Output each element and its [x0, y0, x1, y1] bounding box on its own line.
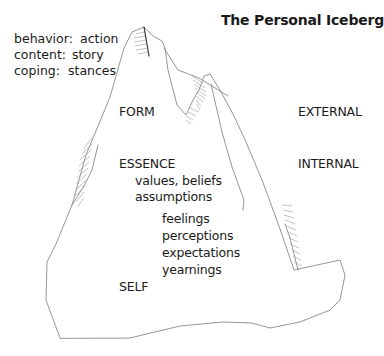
- level-self: SELF: [119, 279, 148, 294]
- inner-item-yearnings: yearnings: [162, 262, 222, 277]
- legend-row-coping: coping:stances: [14, 63, 116, 78]
- essence-item-values-beliefs: values, beliefs: [135, 173, 222, 188]
- level-form: FORM: [119, 104, 155, 119]
- crease-line: [211, 84, 244, 210]
- legend-key: content:: [14, 47, 72, 62]
- level-external: EXTERNAL: [298, 104, 362, 119]
- legend-value: action: [80, 31, 118, 46]
- level-internal: INTERNAL: [298, 156, 359, 171]
- left-contour: [72, 145, 98, 205]
- legend-value: story: [72, 47, 104, 62]
- inner-item-perceptions: perceptions: [162, 228, 233, 243]
- diagram-title: The Personal Iceberg: [221, 12, 384, 28]
- essence-item-assumptions: assumptions: [135, 189, 212, 204]
- legend-key: coping:: [14, 63, 68, 78]
- legend-row-behavior: behavior:action: [14, 31, 118, 46]
- legend-key: behavior:: [14, 31, 80, 46]
- inner-item-feelings: feelings: [162, 211, 210, 226]
- legend-row-content: content:story: [14, 47, 104, 62]
- inner-item-expectations: expectations: [162, 245, 240, 260]
- legend-value: stances: [68, 63, 116, 78]
- level-essence: ESSENCE: [119, 156, 175, 171]
